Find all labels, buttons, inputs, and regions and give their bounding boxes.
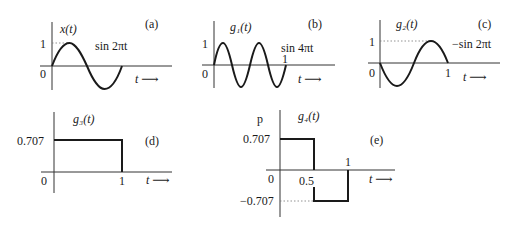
origin-label: 0 [40, 67, 46, 81]
x-mid-label: 0.5 [299, 174, 314, 188]
y-tick-1: 1 [40, 37, 46, 51]
x-end-label: 1 [345, 155, 351, 169]
origin-label: 0 [202, 67, 208, 81]
function-label: g₁(t) [230, 20, 252, 34]
y-tick-1: 1 [202, 37, 208, 51]
function-label: g₄(t) [298, 109, 320, 123]
function-label: g₂(t) [396, 17, 418, 31]
panel-tag: (a) [145, 17, 158, 31]
t-axis-label: t ⟶ [135, 72, 159, 86]
rect-pulse [54, 140, 122, 172]
t-axis-label: t ⟶ [298, 72, 322, 86]
panel-tag: (d) [145, 134, 159, 148]
curve-label: −sin 2πt [452, 37, 492, 51]
t-axis-label: t ⟶ [369, 172, 393, 186]
origin-label: 0 [369, 66, 375, 80]
origin-label: 0 [41, 174, 47, 188]
panel-b: g₁(t) (b) sin 4πt 1 0 1 t ⟶ [202, 17, 335, 88]
x-end-label: 1 [445, 66, 451, 80]
function-label: x(t) [59, 22, 77, 36]
y-tick-neg: −0.707 [240, 194, 274, 208]
panel-tag: (e) [370, 133, 383, 147]
panel-a: x(t) (a) sin 2πt 1 0 t ⟶ [40, 17, 172, 90]
t-axis-label: t ⟶ [146, 173, 170, 187]
curve-label: sin 2πt [95, 39, 128, 53]
t-axis-label: t ⟶ [463, 70, 487, 84]
x-end-label: 1 [282, 52, 288, 66]
y-tick-0707: 0.707 [17, 134, 44, 148]
y-axis-letter: p [257, 112, 263, 126]
panel-tag: (b) [308, 17, 322, 31]
y-tick-pos: 0.707 [243, 132, 270, 146]
panel-c: g₂(t) (c) −sin 2πt 1 0 1 t ⟶ [368, 17, 500, 88]
panel-tag: (c) [478, 17, 491, 31]
x-end-label: 1 [119, 174, 125, 188]
panel-e: p g₄(t) (e) 0.707 −0.707 0 0.5 1 t ⟶ [240, 109, 395, 217]
function-label: g₃(t) [73, 112, 95, 126]
y-tick-1: 1 [369, 35, 375, 49]
origin-label: 0 [268, 172, 274, 186]
panel-d: g₃(t) (d) 0.707 0 1 t ⟶ [17, 112, 172, 193]
